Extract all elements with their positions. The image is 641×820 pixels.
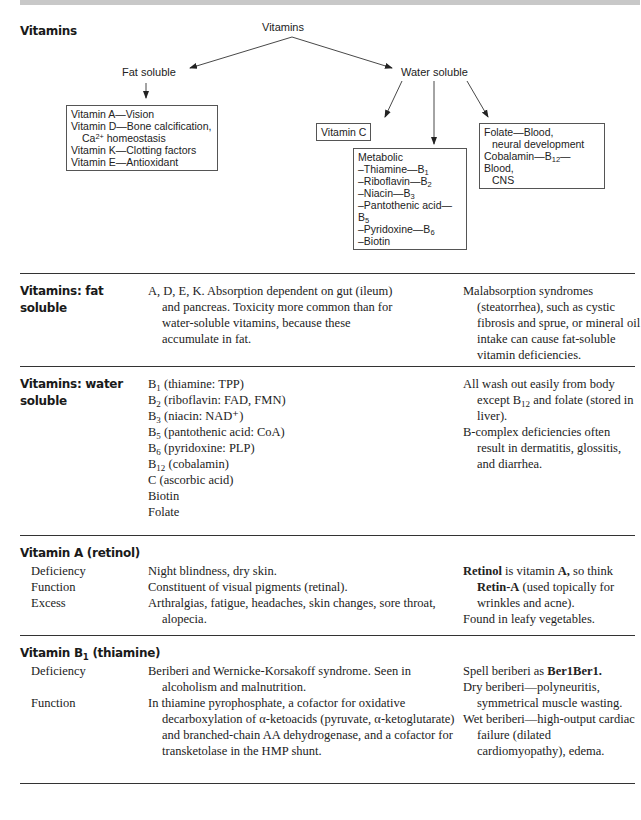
fat-item-vitamin-d-cont: Ca2+ homeostasis (71, 132, 213, 144)
folate-line: Folate—Blood, (484, 126, 600, 138)
arrow-root-to-fat (190, 37, 292, 68)
row-text-function: In thiamine pyrophosphate, a cofactor fo… (148, 695, 462, 759)
divider (20, 535, 635, 536)
metabolic-item-subscript: 2 (427, 180, 431, 189)
arrow-water-to-folate (467, 81, 488, 117)
fat-item-vitamin-d: Vitamin D—Bone calcification, (71, 120, 213, 132)
fat-item-vitamin-e: Vitamin E—Antioxidant (71, 156, 213, 168)
cobalamin-line: Cobalamin—B12—Blood, (484, 150, 600, 174)
water-soluble-item: B1 (thiamine: TPP) (148, 376, 448, 392)
cobalamin-line-cont: CNS (484, 174, 600, 186)
section-title-water-soluble: Vitamins: water soluble (20, 376, 123, 410)
row-label-function: Function (31, 695, 75, 711)
item-name: Folate (148, 505, 179, 519)
fat-item-vitamin-k: Vitamin K—Clotting factors (71, 144, 213, 156)
water-soluble-item: B6 (pyridoxine: PLP) (148, 440, 448, 456)
water-soluble-item: B3 (niacin: NAD⁺) (148, 408, 448, 424)
folate-line-cont: neural development (484, 138, 600, 150)
divider (20, 366, 635, 367)
metabolic-item-name: –Pyridoxine—B (358, 223, 430, 235)
metabolic-item: –Pyridoxine—B6 (358, 223, 462, 235)
metabolic-item-name: –Riboflavin—B (358, 175, 427, 187)
row-label-excess: Excess (31, 595, 66, 611)
metabolic-item-name: –Pantothenic acid—B (358, 199, 452, 223)
metabolic-item: –Niacin—B3 (358, 187, 462, 199)
item-detail: (cobalamin) (165, 457, 229, 471)
row-label-deficiency: Deficiency (31, 563, 86, 579)
water-soluble-item: B5 (pantothenic acid: CoA) (148, 424, 448, 440)
metabolic-item: –Biotin (358, 235, 462, 247)
row-text-excess: Arthralgias, fatigue, headaches, skin ch… (148, 595, 462, 627)
fat-soluble-vitamins-box: Vitamin A—Vision Vitamin D—Bone calcific… (66, 105, 218, 171)
water-soluble-item: Folate (148, 504, 448, 520)
fat-item-vitamin-a: Vitamin A—Vision (71, 108, 213, 120)
fat-soluble-note: Malabsorption syndromes (steatorrhea), s… (463, 283, 641, 363)
arrow-root-to-water (292, 37, 392, 68)
water-soluble-note-bcomplex: B-complex deficiencies often result in d… (463, 424, 638, 472)
water-soluble-item: B2 (riboflavin: FAD, FMN) (148, 392, 448, 408)
item-detail: (thiamine: TPP) (161, 377, 244, 391)
metabolic-item-subscript: 6 (430, 228, 434, 237)
metabolic-vitamins-box: Metabolic –Thiamine—B1–Riboflavin—B2–Nia… (353, 148, 467, 250)
row-label-deficiency: Deficiency (31, 663, 86, 679)
water-soluble-item: C (ascorbic acid) (148, 472, 448, 488)
row-text-function: Constituent of visual pigments (retinal)… (148, 579, 462, 595)
diagram-root-label: Vitamins (262, 21, 304, 33)
metabolic-item: –Riboflavin—B2 (358, 175, 462, 187)
folate-cobalamin-box: Folate—Blood, neural development Cobalam… (479, 123, 605, 189)
divider (20, 783, 635, 784)
divider (20, 273, 635, 274)
section-title-vitamin-a: Vitamin A (retinol) (20, 545, 140, 562)
item-detail: (pyridoxine: PLP) (161, 441, 255, 455)
row-label-function: Function (31, 579, 75, 595)
water-soluble-item: Biotin (148, 488, 448, 504)
water-soluble-notes: All wash out easily from body except B12… (463, 376, 638, 472)
section-title-fat-soluble: Vitamins: fat soluble (20, 283, 103, 317)
metabolic-list: –Thiamine—B1–Riboflavin—B2–Niacin—B3–Pan… (358, 163, 462, 247)
section-title-vitamin-b1: Vitamin B1 (thiamine) (20, 645, 160, 662)
item-detail: (niacin: NAD⁺) (161, 409, 244, 423)
vitamin-c-box: Vitamin C (316, 123, 371, 141)
water-soluble-note-washout: All wash out easily from body except B12… (463, 376, 638, 424)
item-detail: (riboflavin: FAD, FMN) (161, 393, 286, 407)
fat-soluble-description: A, D, E, K. Absorption dependent on gut … (148, 283, 394, 347)
diagram-water-soluble-label: Water soluble (401, 66, 468, 78)
vitamin-a-note: Retinol is vitamin A, so think Retin-A (… (463, 563, 638, 627)
water-soluble-item: B12 (cobalamin) (148, 456, 448, 472)
row-text-deficiency: Night blindness, dry skin. (148, 563, 462, 579)
metabolic-item-name: –Thiamine—B (358, 163, 425, 175)
divider (20, 635, 635, 636)
item-name: Biotin (148, 489, 179, 503)
vitamin-b1-note: Spell beriberi as Ber1Ber1. Dry beriberi… (463, 663, 638, 759)
diagram-fat-soluble-label: Fat soluble (122, 66, 176, 78)
water-soluble-vitamin-list: B1 (thiamine: TPP)B2 (riboflavin: FAD, F… (148, 376, 448, 520)
row-text-deficiency: Beriberi and Wernicke-Korsakoff syndrome… (148, 663, 462, 695)
metabolic-item: –Pantothenic acid—B5 (358, 199, 462, 223)
item-detail: (pantothenic acid: CoA) (161, 425, 285, 439)
item-name: C (ascorbic acid) (148, 473, 233, 487)
metabolic-title: Metabolic (358, 151, 462, 163)
metabolic-item-name: –Biotin (358, 235, 390, 247)
metabolic-item-name: –Niacin—B (358, 187, 411, 199)
metabolic-item: –Thiamine—B1 (358, 163, 462, 175)
arrow-water-to-vitc (385, 81, 402, 117)
